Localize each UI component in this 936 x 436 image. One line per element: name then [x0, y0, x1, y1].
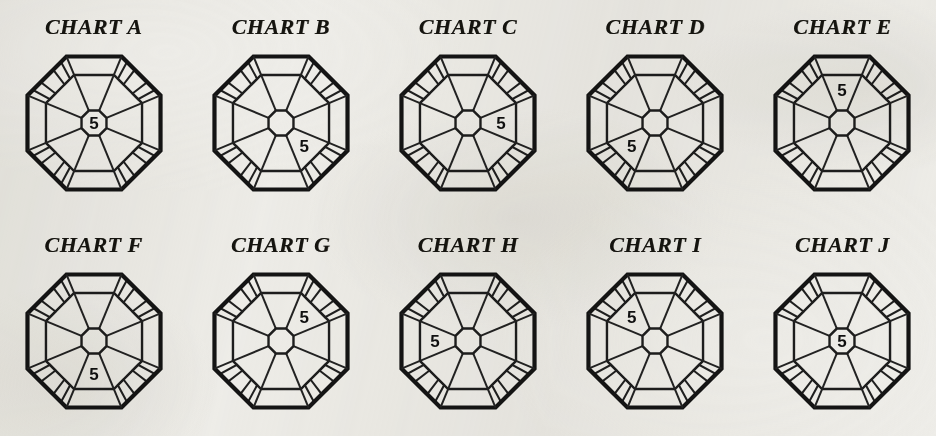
spoke-inner [660, 75, 675, 111]
spoke-inner [635, 293, 650, 329]
spoke-inner [473, 135, 488, 171]
chart-figure-g: 5 [202, 262, 360, 420]
chart-cell-g: CHART G5 [187, 218, 374, 436]
spoke-inner [286, 353, 301, 389]
chart-label-a: CHART A [45, 16, 142, 38]
chart-cell-h: CHART H5 [374, 218, 561, 436]
spoke-inner [233, 103, 269, 118]
marker-value: 5 [299, 137, 308, 156]
spoke-inner [99, 135, 114, 171]
chart-cell-j: CHART J5 [749, 218, 936, 436]
chart-label-j: CHART J [795, 234, 890, 256]
outer-octagon [776, 56, 909, 189]
chart-label-b: CHART B [232, 16, 330, 38]
chart-figure-e: 5 [763, 44, 921, 202]
spoke-inner [420, 128, 456, 143]
marker-value: 5 [89, 365, 98, 384]
octagon-diagram: 5 [389, 262, 547, 420]
spoke-inner [233, 128, 269, 143]
outer-octagon [27, 274, 160, 407]
spoke-inner [794, 103, 830, 118]
spoke-inner [607, 103, 643, 118]
spoke-inner [635, 353, 650, 389]
spoke-inner [607, 346, 643, 361]
spoke-inner [668, 103, 704, 118]
chart-cell-e: CHART E5 [749, 0, 936, 218]
center-octagon [830, 111, 855, 136]
chart-cell-f: CHART F5 [0, 218, 187, 436]
spoke-inner [848, 293, 863, 329]
spoke-inner [46, 321, 82, 336]
spoke-inner [480, 321, 516, 336]
spoke-inner [848, 353, 863, 389]
chart-label-i: CHART I [609, 234, 701, 256]
center-octagon [643, 111, 668, 136]
spoke-inner [106, 321, 142, 336]
spoke-inner [794, 128, 830, 143]
chart-figure-i: 5 [576, 262, 734, 420]
spoke-inner [635, 75, 650, 111]
spoke-inner [635, 135, 650, 171]
center-octagon [456, 329, 481, 354]
marker-value: 5 [299, 308, 308, 327]
spoke-inner [822, 293, 837, 329]
spoke-inner [74, 293, 89, 329]
inner-octagon [233, 293, 329, 389]
spoke-inner [668, 128, 704, 143]
octagon-diagram: 5 [202, 44, 360, 202]
outer-octagon [401, 56, 534, 189]
center-octagon [268, 329, 293, 354]
spoke-inner [293, 346, 329, 361]
inner-octagon [233, 75, 329, 171]
outer-octagon [214, 274, 347, 407]
spoke-inner [855, 346, 891, 361]
spoke-inner [261, 293, 276, 329]
spoke-inner [822, 353, 837, 389]
marker-value: 5 [838, 81, 847, 100]
marker-value: 5 [430, 332, 439, 351]
spoke-inner [855, 103, 891, 118]
octagon-diagram: 5 [15, 44, 173, 202]
chart-cell-d: CHART D5 [562, 0, 749, 218]
spoke-inner [660, 293, 675, 329]
spoke-inner [848, 135, 863, 171]
spoke-inner [46, 346, 82, 361]
spoke-inner [660, 135, 675, 171]
outer-octagon [589, 56, 722, 189]
center-octagon [268, 111, 293, 136]
spoke-inner [46, 103, 82, 118]
chart-label-h: CHART H [418, 234, 519, 256]
chart-figure-h: 5 [389, 262, 547, 420]
spoke-inner [99, 293, 114, 329]
spoke-inner [99, 353, 114, 389]
center-octagon [643, 329, 668, 354]
chart-cell-b: CHART B5 [187, 0, 374, 218]
outer-octagon [589, 274, 722, 407]
spoke-inner [668, 321, 704, 336]
octagon-diagram: 5 [763, 44, 921, 202]
marker-value: 5 [627, 137, 636, 156]
chart-label-g: CHART G [231, 234, 330, 256]
chart-cell-c: CHART C5 [374, 0, 561, 218]
chart-cell-a: CHART A5 [0, 0, 187, 218]
spoke-inner [668, 346, 704, 361]
spoke-inner [46, 128, 82, 143]
spoke-inner [473, 353, 488, 389]
spoke-inner [233, 346, 269, 361]
spoke-inner [448, 75, 463, 111]
marker-value: 5 [89, 114, 98, 133]
spoke-inner [74, 353, 89, 389]
inner-octagon [607, 293, 703, 389]
spoke-inner [855, 128, 891, 143]
spoke-inner [822, 135, 837, 171]
octagon-diagram: 5 [576, 44, 734, 202]
spoke-inner [480, 346, 516, 361]
spoke-inner [233, 321, 269, 336]
chart-label-d: CHART D [605, 16, 704, 38]
center-octagon [81, 329, 106, 354]
chart-figure-j: 5 [763, 262, 921, 420]
octagon-diagram: 5 [202, 262, 360, 420]
spoke-inner [607, 321, 643, 336]
spoke-inner [74, 135, 89, 171]
spoke-inner [822, 75, 837, 111]
